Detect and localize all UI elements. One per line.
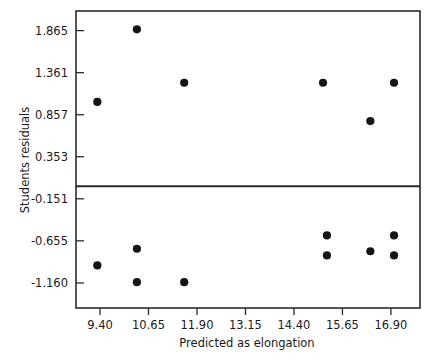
data-point	[133, 278, 141, 286]
data-point	[323, 231, 331, 239]
data-point	[366, 117, 374, 125]
y-tick-label: 0.353	[35, 150, 68, 164]
x-tick-label: 9.40	[87, 318, 113, 332]
data-point	[180, 79, 188, 87]
x-tick-label: 11.90	[181, 318, 214, 332]
x-tick-label: 16.90	[374, 318, 407, 332]
data-point	[180, 278, 188, 286]
y-tick-label: 1.361	[35, 66, 68, 80]
data-point	[133, 245, 141, 253]
plot-border	[76, 11, 420, 308]
data-point	[390, 251, 398, 259]
y-tick-label: -0.151	[31, 192, 68, 206]
data-point	[390, 231, 398, 239]
y-axis-ticks	[76, 31, 84, 283]
y-tick-label: -0.655	[31, 234, 68, 248]
x-tick-label: 10.65	[132, 318, 165, 332]
data-point	[93, 98, 101, 106]
data-point	[390, 79, 398, 87]
x-tick-label: 14.40	[277, 318, 310, 332]
plot-frame	[76, 11, 420, 308]
x-tick-label: 15.65	[326, 318, 359, 332]
y-axis-tick-labels: 1.8651.3610.8570.353-0.151-0.655-1.160	[31, 24, 68, 290]
data-point	[133, 25, 141, 33]
data-point	[366, 247, 374, 255]
y-tick-label: 0.857	[35, 108, 68, 122]
data-point-series	[93, 25, 398, 286]
x-axis-ticks	[100, 308, 391, 315]
y-tick-label: 1.865	[35, 24, 68, 38]
data-point	[323, 251, 331, 259]
x-axis-title: Predicted as elongation	[179, 336, 314, 350]
scatter-plot-canvas: 9.4010.6511.9013.1514.4015.6516.90 1.865…	[0, 0, 442, 359]
residual-plot-figure: 9.4010.6511.9013.1514.4015.6516.90 1.865…	[0, 0, 442, 359]
x-tick-label: 13.15	[229, 318, 262, 332]
x-axis-tick-labels: 9.4010.6511.9013.1514.4015.6516.90	[87, 318, 407, 332]
y-axis-title: Students residuals	[18, 107, 32, 213]
y-tick-label: -1.160	[31, 276, 68, 290]
data-point	[93, 261, 101, 269]
data-point	[319, 79, 327, 87]
